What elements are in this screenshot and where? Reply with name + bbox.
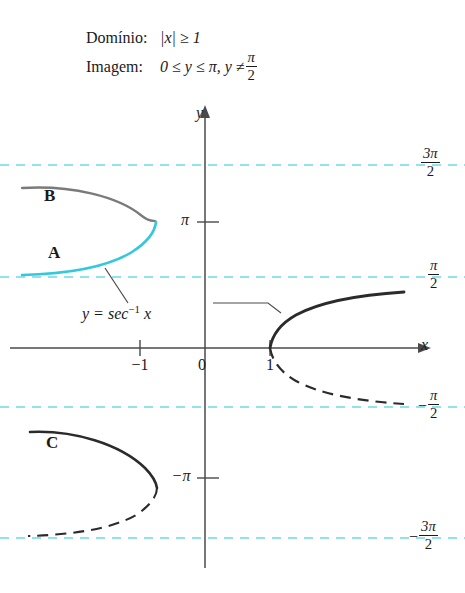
y-tick-label-pi: π	[174, 211, 196, 229]
guide-label-negative-3pi-over-2: − 3π 2	[409, 520, 439, 554]
curve-letter-a: A	[48, 243, 60, 263]
plot-canvas	[0, 0, 465, 593]
guide-label-negative-pi-over-2-num: π	[428, 388, 439, 405]
guide-label-negative-pi-over-2-fraction: π 2	[428, 388, 439, 422]
x-tick-label-0: 0	[190, 356, 214, 374]
guide-label-negative-pi-over-2-den: 2	[428, 405, 439, 421]
curve-reflected-branch-dashed	[270, 348, 404, 404]
function-label-leader-line	[105, 268, 128, 303]
guide-label-pi-over-2: π 2	[427, 259, 440, 293]
guide-label-pi-over-2-num: π	[428, 258, 439, 275]
guide-label-negative-3pi-over-2-fraction: 3π 2	[419, 519, 438, 553]
function-label: y = sec−1 x	[82, 303, 151, 323]
x-axis-label: x	[421, 336, 428, 354]
curve-branch-c-dashed	[28, 488, 157, 536]
guide-label-negative-3pi-over-2-den: 2	[423, 536, 434, 552]
guide-label-negative-pi-over-2: − π 2	[418, 389, 440, 423]
guide-label-3pi-over-2-den: 2	[425, 163, 436, 179]
curve-letter-b: B	[44, 186, 55, 206]
guide-label-negative-pi-over-2-sign: −	[418, 397, 427, 415]
function-label-pointer	[213, 303, 281, 313]
guide-label-3pi-over-2-num: 3π	[421, 146, 440, 163]
function-label-variable: x	[144, 305, 151, 322]
function-label-exponent: −1	[128, 303, 140, 315]
guide-label-pi-over-2-den: 2	[428, 275, 439, 291]
figure-container: Domínio: |x| ≥ 1 Imagem: 0 ≤ y ≤ π, y ≠ …	[0, 0, 465, 593]
guide-label-negative-3pi-over-2-sign: −	[409, 528, 418, 546]
guide-label-3pi-over-2-fraction: 3π 2	[421, 146, 440, 180]
y-axis-label: y	[196, 104, 203, 122]
guide-label-3pi-over-2: 3π 2	[420, 147, 441, 181]
function-label-main: y = sec	[82, 305, 128, 322]
guide-label-negative-3pi-over-2-num: 3π	[419, 519, 438, 536]
x-tick-label-1: 1	[258, 356, 282, 374]
guide-label-pi-over-2-fraction: π 2	[428, 258, 439, 292]
curve-branch-a	[22, 222, 156, 275]
curve-principal-branch	[270, 292, 404, 348]
curve-letter-c: C	[46, 433, 58, 453]
y-tick-label-negative-pi: −π	[166, 467, 196, 485]
x-tick-label-negative-1: −1	[124, 356, 156, 374]
curve-branch-b	[22, 188, 156, 222]
